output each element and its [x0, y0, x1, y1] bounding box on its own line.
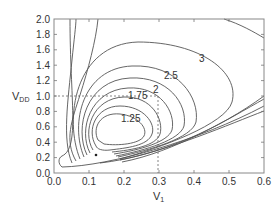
svg-text:0.4: 0.4 — [187, 176, 201, 187]
minimum-marker — [95, 154, 98, 157]
svg-text:0.0: 0.0 — [36, 168, 50, 179]
contour-label-3: 3 — [199, 53, 205, 64]
contour-label-1-25: 1.25 — [121, 113, 141, 124]
svg-text:0.6: 0.6 — [36, 121, 50, 132]
svg-text:0.3: 0.3 — [152, 176, 166, 187]
contour-label-1-75: 1.75 — [128, 90, 148, 101]
contour-chart: 1.25 1.75 2 2.5 3 — [0, 0, 277, 207]
chart-svg: 1.25 1.75 2 2.5 3 — [0, 0, 277, 207]
svg-text:0.6: 0.6 — [257, 176, 271, 187]
svg-text:1.6: 1.6 — [36, 44, 50, 55]
x-axis-label: V1 — [153, 190, 164, 203]
contour-label-2-5: 2.5 — [164, 70, 178, 81]
contour-label-2: 2 — [153, 84, 159, 95]
svg-text:0.8: 0.8 — [36, 106, 50, 117]
svg-text:1.2: 1.2 — [36, 75, 50, 86]
svg-text:1.8: 1.8 — [36, 29, 50, 40]
svg-text:0.4: 0.4 — [36, 137, 50, 148]
svg-text:0.2: 0.2 — [117, 176, 131, 187]
svg-text:1.4: 1.4 — [36, 60, 50, 71]
y-axis-label: VDD — [12, 90, 29, 103]
x-tick-labels: 0.0 0.1 0.2 0.3 0.4 0.5 0.6 — [47, 176, 271, 187]
svg-text:0.2: 0.2 — [36, 152, 50, 163]
contour-lines — [59, 19, 264, 167]
svg-text:1.0: 1.0 — [36, 91, 50, 102]
svg-text:0.1: 0.1 — [82, 176, 96, 187]
svg-text:0.5: 0.5 — [222, 176, 236, 187]
y-tick-labels: 0.0 0.2 0.4 0.6 0.8 1.0 1.2 1.4 1.6 1.8 … — [36, 14, 50, 179]
svg-text:2.0: 2.0 — [36, 14, 50, 25]
